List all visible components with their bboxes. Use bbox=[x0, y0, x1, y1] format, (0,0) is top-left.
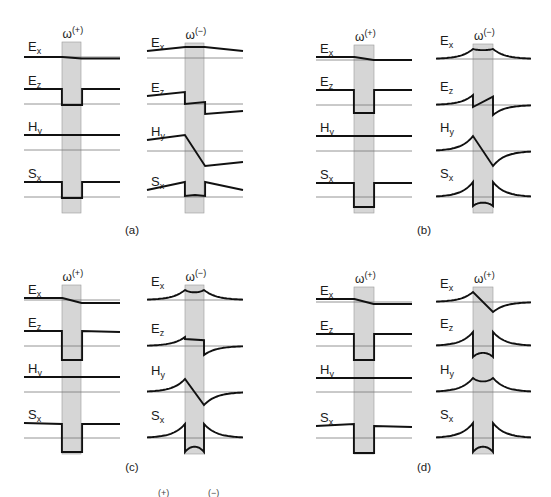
frequency-label: ω(−) bbox=[186, 268, 207, 284]
row-label-sx: Sx bbox=[440, 166, 454, 183]
frequency-label: ω(+) bbox=[474, 270, 495, 286]
column-left: ω(+)ExEzHySx bbox=[24, 25, 120, 213]
panel-tag: (b) bbox=[417, 224, 431, 236]
column-left: ω(+)ExEzHySx bbox=[316, 28, 412, 213]
panel-a: ω(+)ExEzHySxω(−)ExEzHySx(a) bbox=[24, 25, 243, 236]
layer-band bbox=[62, 42, 81, 213]
row-label-hy: Hy bbox=[151, 363, 165, 380]
row-label-ex: Ex bbox=[440, 33, 454, 50]
row-label-ex: Ex bbox=[320, 283, 334, 300]
frequency-label: ω(+) bbox=[355, 28, 376, 44]
layer-band bbox=[354, 287, 374, 454]
panel-c: ω(+)ExEzHySxω(−)ExEzHySx(c) bbox=[24, 268, 243, 473]
row-label-ex: Ex bbox=[151, 274, 165, 291]
row-label-ex: Ex bbox=[320, 41, 334, 58]
figure-canvas: ω(+)ExEzHySxω(−)ExEzHySx(a)ω(+)ExEzHySxω… bbox=[0, 0, 551, 497]
panel-b: ω(+)ExEzHySxω(−)ExEzHySx(b) bbox=[316, 27, 531, 236]
row-label-hy: Hy bbox=[440, 120, 454, 137]
column-right: ω(−)ExEzHySx bbox=[147, 268, 243, 454]
column-right: ω(+)ExEzHySx bbox=[436, 270, 531, 454]
row-label-hy: Hy bbox=[320, 362, 334, 379]
caption-fragment: (+) bbox=[158, 488, 169, 497]
frequency-label: ω(+) bbox=[63, 268, 84, 284]
layer-band bbox=[185, 285, 204, 454]
row-label-ex: Ex bbox=[28, 39, 42, 56]
panel-tag: (a) bbox=[125, 224, 139, 236]
row-label-sx: Sx bbox=[320, 167, 334, 184]
row-label-sx: Sx bbox=[151, 408, 165, 425]
row-label-hy: Hy bbox=[28, 361, 42, 378]
column-right: ω(−)ExEzHySx bbox=[436, 27, 531, 213]
column-left: ω(+)ExEzHySx bbox=[316, 270, 412, 454]
caption-fragment: (−) bbox=[208, 488, 219, 497]
row-label-sx: Sx bbox=[28, 407, 42, 424]
row-label-ez: Ez bbox=[151, 321, 165, 338]
layer-band bbox=[473, 44, 493, 213]
row-label-ex: Ex bbox=[28, 282, 42, 299]
frequency-label: ω(−) bbox=[474, 27, 495, 43]
row-label-hy: Hy bbox=[440, 362, 454, 379]
field-profile-figure: ω(+)ExEzHySxω(−)ExEzHySx(a)ω(+)ExEzHySxω… bbox=[0, 0, 551, 497]
row-label-ez: Ez bbox=[28, 315, 42, 332]
row-label-ez: Ez bbox=[440, 79, 454, 96]
row-label-hy: Hy bbox=[28, 119, 42, 136]
row-label-ez: Ez bbox=[28, 73, 42, 90]
panel-tag: (d) bbox=[417, 461, 431, 473]
panel-d: ω(+)ExEzHySxω(+)ExEzHySx(d) bbox=[316, 270, 531, 473]
row-label-ex: Ex bbox=[440, 276, 454, 293]
layer-band bbox=[354, 45, 374, 213]
frequency-label: ω(+) bbox=[63, 25, 84, 41]
row-label-sx: Sx bbox=[440, 407, 454, 424]
layer-band bbox=[62, 285, 81, 454]
row-label-sx: Sx bbox=[28, 166, 42, 183]
row-label-ez: Ez bbox=[440, 316, 454, 333]
row-label-ez: Ez bbox=[320, 74, 334, 91]
panel-tag: (c) bbox=[125, 461, 139, 473]
column-right: ω(−)ExEzHySx bbox=[147, 26, 243, 213]
layer-band bbox=[473, 287, 493, 454]
layer-band bbox=[185, 43, 204, 213]
column-left: ω(+)ExEzHySx bbox=[24, 268, 120, 454]
frequency-label: ω(+) bbox=[355, 270, 376, 286]
row-label-ez: Ez bbox=[320, 318, 334, 335]
row-label-hy: Hy bbox=[320, 120, 334, 137]
frequency-label: ω(−) bbox=[186, 26, 207, 42]
